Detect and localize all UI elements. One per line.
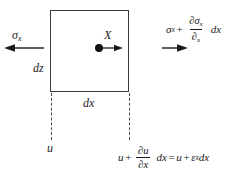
arrow-right-small-icon — [101, 43, 123, 53]
strain-lhs-trailing: dx — [156, 152, 166, 163]
sigma-subscript: x — [18, 34, 22, 43]
arrow-right-icon — [162, 43, 188, 53]
label-displacement-u: u — [47, 142, 53, 154]
strain-rhs-plus: + — [182, 152, 191, 163]
strain-fraction: ∂u ∂x — [136, 145, 150, 170]
sigma-right-plus: + — [175, 24, 184, 35]
sigma-right-fraction: ∂σx ∂x — [187, 15, 205, 44]
arrow-left-icon — [4, 43, 44, 53]
sigma-right-denominator-subscript: x — [197, 36, 200, 44]
sigma-right-trailing: dx — [211, 24, 221, 35]
strain-lhs-plus: + — [124, 152, 133, 163]
sigma-right-numerator-subscript: x — [200, 20, 203, 28]
label-sigma-x-right-expression: σx + ∂σx ∂x dx — [166, 15, 221, 44]
strain-equals: = — [167, 152, 176, 163]
label-sigma-x-left: σx — [12, 29, 22, 43]
label-body-force-X: X — [104, 29, 111, 41]
dashed-projection-right — [129, 93, 130, 140]
label-dz: dz — [33, 62, 44, 74]
dashed-projection-left — [51, 93, 52, 140]
stress-element-diagram: σx X dz dx u σx + ∂σx ∂x dx u + ∂u ∂x dx — [0, 0, 239, 178]
label-dx: dx — [83, 97, 94, 109]
sigma-right-denominator: ∂x — [190, 29, 202, 44]
label-strain-equation: u + ∂u ∂x dx = u + εx dx — [118, 145, 209, 170]
sigma-right-numerator-text: ∂σ — [189, 15, 199, 26]
strain-rhs-trailing: dx — [199, 152, 209, 163]
strain-denominator: ∂x — [136, 157, 150, 170]
sigma-right-numerator: ∂σx — [187, 15, 205, 29]
strain-numerator: ∂u — [136, 145, 150, 157]
